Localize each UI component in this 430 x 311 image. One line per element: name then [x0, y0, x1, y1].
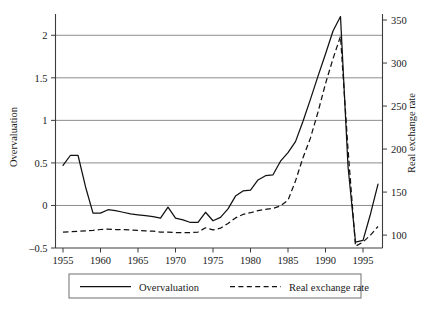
ytick-label-right-0: 100 [391, 230, 407, 241]
y-axis-left-title: Overvaluation [8, 106, 19, 167]
ytick-label-left-4: 1.5 [34, 73, 47, 84]
legend-label-overvaluation: Overvaluation [139, 282, 200, 293]
gridlines-group [56, 35, 383, 205]
ytick-label-left-1: 0 [42, 200, 47, 211]
xtick-label-2: 1965 [128, 255, 149, 266]
y-axis-right-tick-labels: 100150200250300350 [391, 15, 407, 241]
ytick-label-right-2: 200 [391, 144, 407, 155]
xtick-label-0: 1955 [53, 255, 74, 266]
ytick-label-left-2: 0.5 [34, 158, 47, 169]
chart-legend: Overvaluation Real exchange rate [69, 274, 369, 298]
xtick-label-4: 1975 [203, 255, 224, 266]
xtick-label-5: 1980 [240, 255, 261, 266]
chart-container: 195519601965197019751980198519901995 –0.… [0, 0, 430, 311]
legend-label-real-exchange-rate: Real exchange rate [289, 282, 369, 293]
series-line-real-exchange-rate [63, 36, 378, 246]
y-axis-right-title: Real exchange rate [406, 93, 417, 173]
y-axis-left-tick-labels: –0.500.511.52 [28, 30, 47, 254]
ytick-label-left-5: 2 [42, 30, 47, 41]
xtick-label-7: 1990 [315, 255, 336, 266]
ytick-label-left-0: –0.5 [28, 243, 47, 254]
x-axis-tick-labels: 195519601965197019751980198519901995 [53, 255, 374, 266]
ytick-label-right-5: 350 [391, 15, 407, 26]
xtick-label-3: 1970 [165, 255, 186, 266]
xtick-label-8: 1995 [353, 255, 374, 266]
overvaluation-real-exchange-rate-chart: 195519601965197019751980198519901995 –0.… [0, 0, 430, 311]
xtick-label-6: 1985 [278, 255, 299, 266]
ytick-label-left-3: 1 [42, 115, 47, 126]
series-line-overvaluation [63, 17, 378, 242]
plot-frame [56, 14, 383, 248]
data-series-layer [63, 17, 378, 247]
ytick-label-right-4: 300 [391, 58, 407, 69]
xtick-label-1: 1960 [90, 255, 111, 266]
ytick-label-right-3: 250 [391, 101, 407, 112]
ytick-label-right-1: 150 [391, 187, 407, 198]
